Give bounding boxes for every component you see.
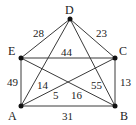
weight-d-b: 55 [91, 79, 103, 91]
node-label-b: B [120, 109, 128, 123]
weight-d-e: 28 [33, 27, 45, 39]
weight-d-c: 23 [96, 27, 108, 39]
weight-e-b: 16 [71, 89, 83, 101]
node-b [113, 104, 118, 109]
weight-a-b: 31 [62, 110, 73, 122]
node-label-d: D [65, 3, 74, 17]
node-e [19, 56, 24, 61]
node-label-e: E [8, 44, 15, 58]
weight-e-c: 44 [61, 46, 73, 58]
node-label-c: C [119, 44, 127, 58]
weight-c-b: 13 [120, 76, 132, 88]
weight-e-a: 49 [7, 76, 19, 88]
weight-a-d: 14 [37, 79, 49, 91]
node-label-a: A [8, 109, 17, 123]
weight-a-c: 5 [53, 89, 59, 101]
node-d [68, 17, 73, 22]
weighted-graph-diagram: A B C D E 28 23 44 49 13 31 14 55 5 16 [0, 0, 136, 125]
edge-weights: 28 23 44 49 13 31 14 55 5 16 [7, 27, 132, 122]
edge-d-c [70, 19, 115, 58]
node-c [113, 56, 118, 61]
node-a [19, 104, 24, 109]
